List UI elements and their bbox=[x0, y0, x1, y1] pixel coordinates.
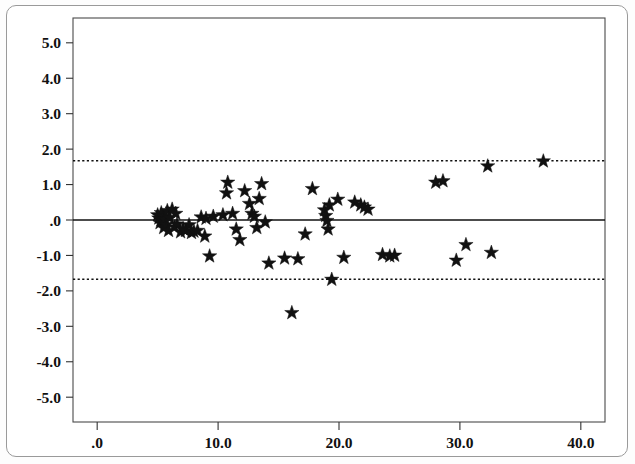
data-point-marker bbox=[216, 208, 230, 222]
y-tick-label: -4.0 bbox=[36, 353, 61, 370]
data-point-marker bbox=[277, 251, 291, 265]
y-tick-label: .0 bbox=[49, 212, 61, 229]
data-point-marker bbox=[262, 256, 276, 270]
data-points-group bbox=[151, 154, 551, 319]
y-axis-ticks: 5.04.03.02.01.0.0-1.0-2.0-3.0-4.0-5.0 bbox=[36, 34, 73, 405]
data-point-marker bbox=[449, 253, 463, 267]
data-point-marker bbox=[229, 222, 243, 236]
data-point-marker bbox=[221, 175, 235, 189]
reference-lines-group bbox=[73, 161, 605, 279]
data-point-marker bbox=[225, 206, 239, 220]
data-point-marker bbox=[337, 250, 351, 264]
data-point-marker bbox=[238, 183, 252, 197]
y-tick-label: -2.0 bbox=[36, 282, 61, 299]
y-tick-label: -3.0 bbox=[36, 318, 61, 335]
y-tick-label: 4.0 bbox=[42, 70, 62, 87]
data-point-marker bbox=[459, 237, 473, 251]
x-tick-label: 20.0 bbox=[325, 434, 352, 451]
x-tick-label: 40.0 bbox=[567, 434, 594, 451]
data-point-marker bbox=[254, 176, 268, 190]
y-tick-label: 2.0 bbox=[42, 141, 62, 158]
figure-container: 5.04.03.02.01.0.0-1.0-2.0-3.0-4.0-5.0 .0… bbox=[0, 0, 635, 464]
data-point-marker bbox=[536, 154, 550, 168]
x-tick-label: 30.0 bbox=[446, 434, 473, 451]
data-point-marker bbox=[233, 232, 247, 246]
data-point-marker bbox=[202, 249, 216, 263]
y-tick-label: -5.0 bbox=[36, 389, 61, 406]
data-point-marker bbox=[285, 305, 299, 319]
data-point-marker bbox=[298, 227, 312, 241]
data-point-marker bbox=[291, 251, 305, 265]
x-axis-ticks: .010.020.030.040.0 bbox=[91, 422, 594, 451]
scatter-plot-canvas: 5.04.03.02.01.0.0-1.0-2.0-3.0-4.0-5.0 .0… bbox=[0, 0, 635, 464]
x-tick-label: 10.0 bbox=[205, 434, 232, 451]
data-point-marker bbox=[305, 181, 319, 195]
y-tick-label: 3.0 bbox=[42, 105, 62, 122]
y-tick-label: -1.0 bbox=[36, 247, 61, 264]
data-point-marker bbox=[325, 272, 339, 286]
y-tick-label: 1.0 bbox=[42, 176, 62, 193]
data-point-marker bbox=[321, 222, 335, 236]
data-point-marker bbox=[484, 245, 498, 259]
x-tick-label: .0 bbox=[91, 434, 103, 451]
y-tick-label: 5.0 bbox=[42, 34, 62, 51]
